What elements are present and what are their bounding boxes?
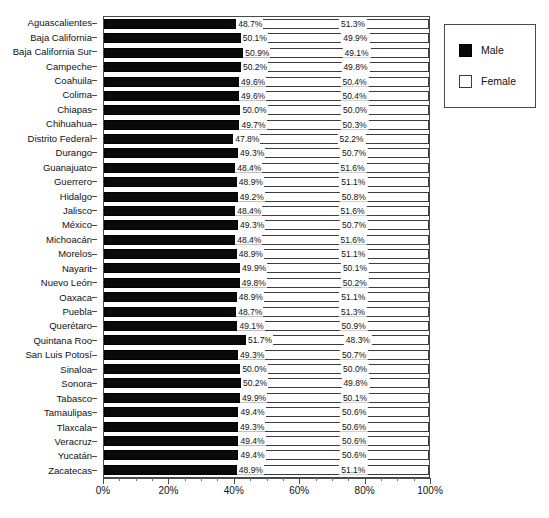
x-axis-tick-label: 100%	[417, 486, 443, 496]
bar-segment-male: 48.4%	[104, 235, 261, 245]
bar-value-male: 48.9%	[237, 249, 264, 260]
bar-value-female: 50.1%	[341, 263, 369, 274]
y-axis-tick	[92, 138, 97, 139]
bar-value-female: 50.4%	[340, 91, 368, 102]
bar-segment-female: 50.7%	[264, 350, 429, 360]
bar-value-male: 49.3%	[238, 421, 265, 432]
x-axis-tick-label: 40%	[224, 486, 244, 496]
bar-value-female: 50.6%	[340, 407, 368, 418]
y-axis-label: Chihuahua	[0, 119, 97, 129]
bar-segment-female: 51.1%	[263, 177, 429, 187]
bar-segment-male: 49.8%	[104, 278, 266, 288]
x-axis-tick-minor	[414, 478, 415, 481]
y-axis-label: Sinaloa	[0, 365, 97, 375]
bar-value-female: 51.1%	[339, 249, 367, 260]
y-axis-label: Baja California Sur	[0, 47, 97, 57]
bar-value-male: 51.7%	[246, 335, 273, 346]
bar-row: 48.4%51.6%	[104, 163, 429, 173]
legend-item-male[interactable]: Male	[459, 44, 535, 57]
legend-item-female[interactable]: Female	[459, 75, 535, 88]
y-axis-label: Querétaro	[0, 321, 97, 331]
y-axis-label: Zacatecas	[0, 466, 97, 476]
bar-segment-female: 51.3%	[262, 307, 429, 317]
x-axis-tick-minor	[136, 478, 137, 481]
y-axis-label: Coahuila	[0, 76, 97, 86]
bar-value-female: 51.3%	[339, 19, 367, 30]
bar-value-female: 50.6%	[340, 450, 368, 461]
y-axis-label: Nuevo León	[0, 278, 97, 288]
bar-row: 49.9%50.1%	[104, 263, 429, 273]
bar-segment-female: 50.4%	[265, 91, 429, 101]
bar-segment-female: 50.1%	[266, 263, 429, 273]
bar-row: 49.8%50.2%	[104, 278, 429, 288]
bar-segment-male: 50.0%	[104, 105, 267, 115]
y-axis-category-labels: AguascalientesBaja CaliforniaBaja Califo…	[0, 16, 97, 478]
y-axis-label: Tamaulipas	[0, 408, 97, 418]
x-axis-tick-minor	[348, 478, 349, 481]
bar-segment-male: 50.1%	[104, 33, 267, 43]
bar-value-female: 49.9%	[341, 33, 369, 44]
y-axis-tick	[92, 23, 97, 24]
y-axis-tick	[92, 196, 97, 197]
bar-segment-female: 51.1%	[263, 292, 429, 302]
y-axis-tick	[92, 167, 97, 168]
y-axis-label: Distrito Federal	[0, 134, 97, 144]
bar-segment-male: 51.7%	[104, 335, 272, 345]
bar-segment-male: 49.9%	[104, 393, 266, 403]
bar-value-male: 48.7%	[236, 19, 263, 30]
bar-value-male: 49.6%	[239, 76, 266, 87]
x-axis-tick-major	[430, 478, 431, 484]
bar-row: 49.3%50.7%	[104, 350, 429, 360]
bar-value-female: 52.2%	[337, 134, 365, 145]
bar-value-male: 50.9%	[243, 48, 270, 59]
bar-segment-male: 48.4%	[104, 206, 261, 216]
x-axis-tick-label: 0%	[96, 486, 110, 496]
y-axis-label: Chiapas	[0, 105, 97, 115]
y-axis-tick	[92, 383, 97, 384]
y-axis-tick	[92, 427, 97, 428]
bar-segment-male: 48.9%	[104, 292, 263, 302]
x-axis-tick-label: 20%	[158, 486, 178, 496]
bar-row: 49.4%50.6%	[104, 407, 429, 417]
x-axis-tick-major	[103, 478, 104, 484]
bar-value-male: 49.7%	[239, 119, 266, 130]
bar-row: 49.2%50.8%	[104, 192, 429, 202]
bar-value-female: 50.3%	[341, 119, 369, 130]
y-axis-label: Nayarit	[0, 263, 97, 273]
bar-value-female: 48.3%	[344, 335, 372, 346]
bar-value-male: 48.9%	[237, 292, 264, 303]
bar-row: 49.6%50.4%	[104, 91, 429, 101]
bar-value-female: 50.0%	[341, 105, 369, 116]
bar-value-female: 50.6%	[340, 436, 368, 447]
y-axis-tick	[92, 254, 97, 255]
bar-rows: 48.7%51.3%50.1%49.9%50.9%49.1%50.2%49.8%…	[104, 17, 429, 477]
bar-row: 49.4%50.6%	[104, 436, 429, 446]
y-axis-tick	[92, 124, 97, 125]
y-axis-tick	[92, 412, 97, 413]
bar-segment-female: 52.2%	[259, 134, 429, 144]
y-axis-tick	[92, 95, 97, 96]
y-axis-label: Aguascalientes	[0, 18, 97, 28]
bar-value-male: 48.4%	[235, 234, 262, 245]
x-axis-tick-minor	[267, 478, 268, 481]
bar-value-female: 49.1%	[343, 48, 371, 59]
bar-value-female: 51.6%	[338, 163, 366, 174]
x-axis-tick-minor	[185, 478, 186, 481]
bar-segment-male: 49.6%	[104, 77, 265, 87]
y-axis-tick	[92, 37, 97, 38]
bar-value-male: 50.0%	[240, 105, 267, 116]
y-axis-tick	[92, 311, 97, 312]
bar-row: 48.4%51.6%	[104, 206, 429, 216]
legend-label: Male	[481, 45, 504, 56]
y-axis-label: Tlaxcala	[0, 422, 97, 432]
bar-value-female: 50.9%	[340, 321, 368, 332]
bar-value-male: 50.1%	[241, 33, 268, 44]
bar-value-male: 48.4%	[235, 163, 262, 174]
legend-swatch-male-icon	[459, 44, 472, 57]
bar-segment-male: 48.7%	[104, 19, 262, 29]
bar-value-male: 50.2%	[241, 62, 268, 73]
bar-value-male: 49.4%	[238, 436, 265, 447]
bar-segment-female: 50.7%	[264, 148, 429, 158]
bar-segment-male: 49.4%	[104, 407, 265, 417]
bar-row: 47.8%52.2%	[104, 134, 429, 144]
